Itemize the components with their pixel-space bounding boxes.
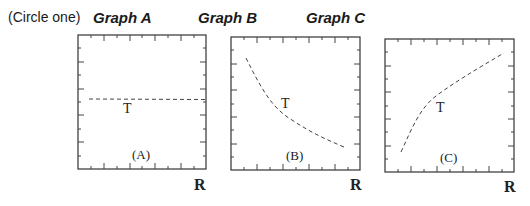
- graph-c-curve: [401, 53, 504, 152]
- graph-c-caption: (C): [440, 150, 457, 165]
- graph-c-curve-label: T: [436, 100, 445, 115]
- graph-b-caption: (B): [286, 148, 303, 163]
- graph-a-curve-label: T: [123, 101, 132, 116]
- graph-a-axis-label: R: [194, 176, 206, 193]
- graph-c: T (C) R: [385, 39, 516, 195]
- graphs-figure: T (A) R T (B) R T (C) R: [0, 0, 530, 206]
- graph-b-curve-label: T: [281, 96, 290, 111]
- graph-b-curve: [246, 58, 344, 147]
- graph-a-caption: (A): [132, 147, 150, 162]
- graph-b: T (B) R: [231, 37, 362, 193]
- graph-c-axis-label: R: [504, 178, 516, 195]
- graph-a-curve: [89, 99, 205, 100]
- graph-a: T (A) R: [78, 35, 206, 193]
- graph-b-axis-label: R: [350, 176, 362, 193]
